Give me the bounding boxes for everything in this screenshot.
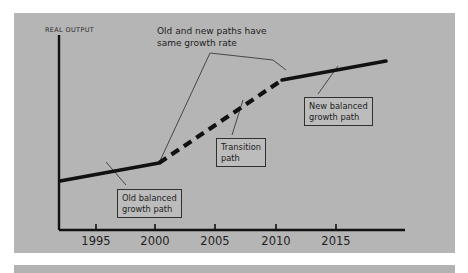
y-axis-title: REAL OUTPUT [45, 26, 94, 34]
annotation-growth-rate-line1: Old and new paths have [157, 26, 267, 38]
annotation-old-balanced-growth-path: Old balanced growth path [117, 189, 182, 218]
chart-panel: REAL OUTPUT 1995 2000 2005 2010 2015 Old… [14, 13, 455, 253]
annotation-growth-rate-line2: same growth rate [157, 38, 267, 50]
annotation-new-path-line2: growth path [309, 112, 368, 123]
series-new-balanced-growth-path [282, 61, 386, 80]
annotation-transition-line1: Transition [221, 142, 261, 153]
x-tick-label-2010: 2010 [261, 234, 290, 248]
x-tick-label-2000: 2000 [140, 234, 169, 248]
annotation-old-path-line2: growth path [122, 204, 177, 215]
leader-line-growth-rate-right [210, 53, 286, 70]
annotation-new-path-line1: New balanced [309, 101, 368, 112]
x-tick-label-2015: 2015 [321, 234, 350, 248]
annotation-transition-line2: path [221, 153, 261, 164]
annotation-transition-path: Transition path [216, 138, 266, 167]
x-tick-label-2005: 2005 [200, 234, 229, 248]
chart-plot-area [14, 13, 455, 253]
figure-stage: REAL OUTPUT 1995 2000 2005 2010 2015 Old… [0, 0, 468, 273]
annotation-growth-rate: Old and new paths have same growth rate [157, 26, 267, 49]
leader-line-transition [232, 100, 243, 135]
annotation-new-balanced-growth-path: New balanced growth path [304, 97, 373, 126]
x-tick-label-1995: 1995 [81, 234, 110, 248]
annotation-old-path-line1: Old balanced [122, 193, 177, 204]
bottom-gray-strip [14, 265, 455, 273]
